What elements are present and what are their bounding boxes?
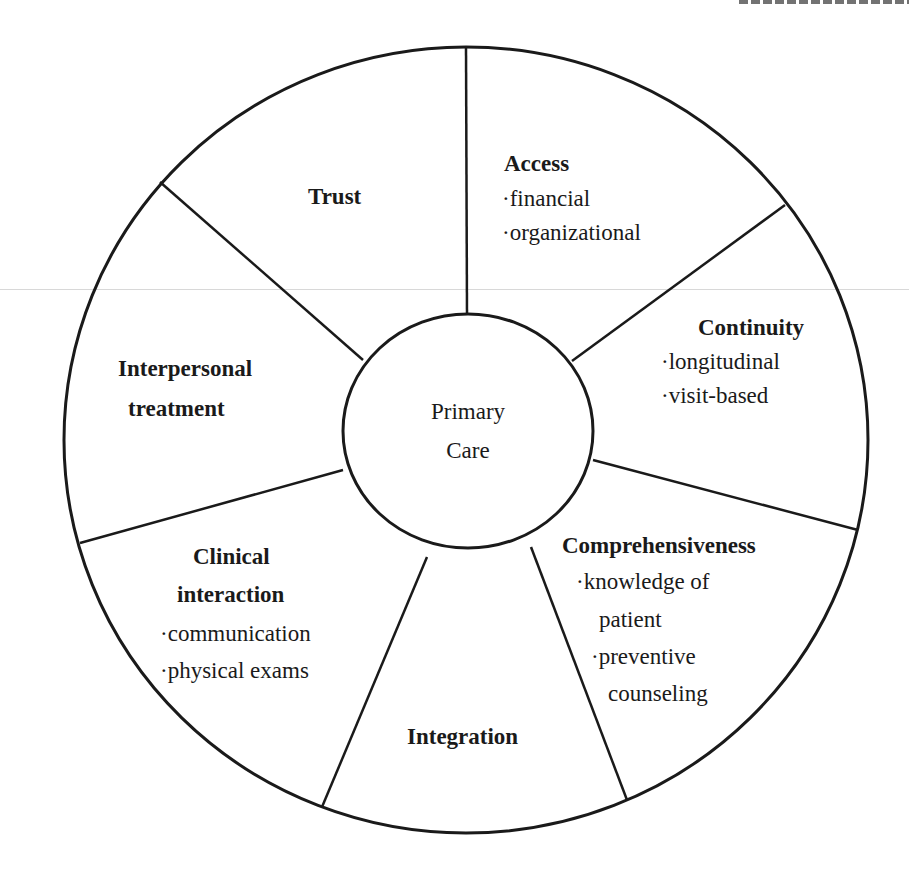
divider-right xyxy=(593,460,858,530)
bullet-icon: · xyxy=(160,621,168,646)
segment-clinical-item: ·communication xyxy=(160,622,311,645)
segment-access-item: ·organizational xyxy=(502,221,641,244)
segment-comprehensiveness-item-cont: patient xyxy=(599,608,662,631)
segment-continuity-item: ·longitudinal xyxy=(661,350,780,373)
segment-integration-title: Integration xyxy=(407,725,518,748)
bullet-icon: · xyxy=(160,658,168,683)
divider-top xyxy=(466,47,467,315)
segment-interpersonal-title-line2: treatment xyxy=(128,397,225,420)
segment-clinical-item: ·physical exams xyxy=(160,659,309,682)
segment-access-title: Access xyxy=(504,152,569,175)
segment-clinical-title-line1: Clinical xyxy=(193,545,270,568)
bullet-icon: · xyxy=(661,383,669,408)
bullet-icon: · xyxy=(502,186,510,211)
divider-left xyxy=(80,470,343,543)
segment-continuity-title: Continuity xyxy=(698,316,804,339)
center-label-line2: Care xyxy=(388,431,548,470)
segment-interpersonal-title-line1: Interpersonal xyxy=(118,357,252,380)
center-label: Primary Care xyxy=(388,392,548,470)
bullet-icon: · xyxy=(591,644,599,669)
segment-trust-title: Trust xyxy=(308,185,361,208)
bullet-icon: · xyxy=(576,569,584,594)
center-label-line1: Primary xyxy=(388,392,548,431)
segment-clinical-title-line2: interaction xyxy=(177,583,284,606)
divider-lower-left xyxy=(322,557,427,807)
segment-comprehensiveness-item: ·preventive xyxy=(591,645,696,668)
bullet-icon: · xyxy=(661,349,669,374)
segment-comprehensiveness-title: Comprehensiveness xyxy=(562,534,756,557)
segment-continuity-item: ·visit-based xyxy=(661,384,768,407)
segment-comprehensiveness-item-cont: counseling xyxy=(608,682,708,705)
segment-access-item: ·financial xyxy=(502,187,590,210)
bullet-icon: · xyxy=(502,220,510,245)
segment-comprehensiveness-item: ·knowledge of xyxy=(576,570,710,593)
